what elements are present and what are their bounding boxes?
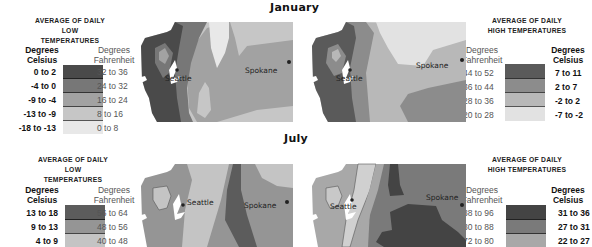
celsius-range: 4 to 9: [36, 236, 58, 246]
celsius-header: Degrees Celsius: [22, 185, 62, 205]
celsius-range: -7 to -2: [555, 110, 583, 120]
fahrenheit-range: 8 to 16: [97, 109, 123, 119]
legend-swatch-2: [506, 234, 546, 247]
city-label-seattle: Seattle: [336, 74, 363, 83]
legend-swatch-0: [505, 64, 545, 79]
celsius-range: 0 to 2: [34, 67, 56, 77]
map-january-high: Seattle Spokane: [308, 18, 468, 123]
legend-swatch-0: [506, 205, 546, 220]
legend-swatch-2: [505, 93, 545, 107]
celsius-range: 2 to 7: [555, 82, 577, 92]
city-label-seattle: Seattle: [330, 202, 357, 211]
january-title: January: [270, 1, 319, 14]
celsius-range: -9 to -4: [28, 95, 56, 105]
july-title: July: [284, 132, 308, 145]
fahrenheit-range: 24 to 32: [97, 81, 128, 91]
fahrenheit-header: Degrees Fahrenheit: [90, 45, 138, 65]
celsius-range: 22 to 27: [558, 236, 590, 246]
city-label-spokane: Spokane: [426, 193, 459, 202]
city-label-spokane: Spokane: [416, 61, 449, 70]
legend-january-high: AVERAGE OF DAILY HIGH TEMPERATURES Degre…: [460, 0, 592, 125]
legend-july-low: AVERAGE OF DAILY LOW TEMPERATURES Degree…: [0, 130, 140, 247]
celsius-range: -13 to -9: [23, 109, 56, 119]
legend-swatch-1: [505, 79, 545, 93]
legend-title-line1: AVERAGE OF DAILY: [487, 155, 568, 165]
celsius-range: 7 to 11: [555, 68, 581, 78]
celsius-range: -4 to 0: [31, 81, 56, 91]
fahrenheit-range: 56 to 64: [97, 208, 128, 218]
legend-title-line2: HIGH TEMPERATURES: [487, 165, 568, 175]
celsius-range: 9 to 13: [31, 222, 58, 232]
legend-swatch-1: [506, 220, 546, 234]
fahrenheit-header: Degrees Fahrenheit: [90, 185, 138, 205]
city-label-spokane: Spokane: [244, 201, 277, 210]
celsius-header: Degrees Celsius: [22, 45, 62, 65]
legend-title-line2: LOW TEMPERATURES: [34, 26, 106, 46]
legend-title-line1: AVERAGE OF DAILY: [34, 16, 106, 26]
legend-july-high: AVERAGE OF DAILY HIGH TEMPERATURES Degre…: [460, 130, 592, 247]
legend-swatch-3: [505, 107, 545, 121]
city-label-seattle: Seattle: [187, 198, 214, 207]
legend-title-line1: AVERAGE OF DAILY: [487, 16, 568, 26]
map-july-low: Seattle Spokane: [137, 160, 295, 247]
fahrenheit-range: 16 to 24: [97, 95, 128, 105]
fahrenheit-range: 40 to 48: [97, 236, 128, 246]
city-label-spokane: Spokane: [245, 66, 278, 75]
legend-january-low: AVERAGE OF DAILY LOW TEMPERATURES Degree…: [0, 0, 140, 125]
city-label-seattle: Seattle: [165, 74, 192, 83]
legend-title-line2: LOW TEMPERATURES: [37, 165, 109, 185]
map-july-high: Seattle Spokane: [308, 160, 468, 247]
legend-title-line2: HIGH TEMPERATURES: [487, 26, 568, 36]
celsius-header: Degrees Celsius: [548, 45, 588, 65]
fahrenheit-range: 48 to 56: [97, 222, 128, 232]
legend-title-line1: AVERAGE OF DAILY: [37, 155, 109, 165]
celsius-range: 31 to 36: [558, 208, 590, 218]
celsius-range: -2 to 2: [555, 96, 580, 106]
celsius-range: 27 to 31: [558, 222, 590, 232]
celsius-range: 13 to 18: [26, 208, 58, 218]
celsius-header: Degrees Celsius: [548, 185, 588, 205]
fahrenheit-range: 32 to 36: [97, 67, 128, 77]
map-january-low: Seattle Spokane: [137, 18, 295, 123]
